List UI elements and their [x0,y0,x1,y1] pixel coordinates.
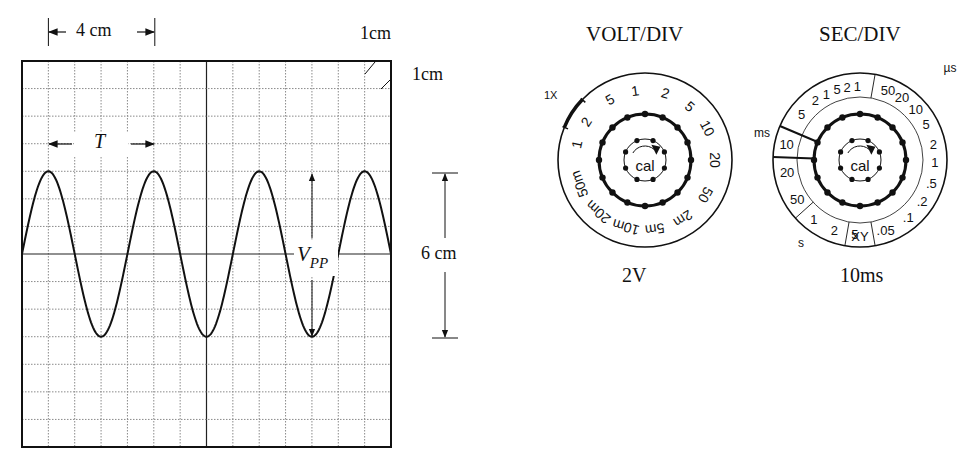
sec-label-ms: 5 [798,107,805,122]
knob-grip [659,114,665,120]
six-cm-label: 6 cm [421,243,457,264]
volt-dial-label: 50 [695,184,717,206]
corner-scale-marks [365,62,391,89]
volt-dial-label: 5 [682,98,698,115]
cal-grip [623,165,628,170]
unit-ms-label: ms [754,126,770,140]
cal-grip [662,165,667,170]
cal-rotate-arrow-icon [848,146,869,153]
volt-div-title: VOLT/DIV [586,22,683,47]
sec-label-us: .1 [903,210,914,225]
cal-grip [865,177,870,182]
knob-grip [609,189,615,195]
knob-grip [659,199,665,205]
knob-grip [599,139,605,145]
knob-grip [624,114,630,120]
knob-grip [903,157,909,163]
sec-label-s: 1 [810,212,817,227]
cal-grip [650,138,655,143]
knob-grip [874,114,880,120]
cal-grip [650,177,655,182]
volt-dial-label: 50m [567,168,591,199]
cal-grip [838,165,843,170]
knob-grip [624,199,630,205]
top-right-cm-label: 1cm [360,23,391,44]
knob-grip [674,189,680,195]
volt-div-dial[interactable]: 1X251251020502m5m10m20m50m1cal [544,73,732,247]
cal-grip [838,149,843,154]
knob-grip [811,157,817,163]
knob-grip [599,174,605,180]
cal-grip [877,149,882,154]
knob-grip [857,111,863,117]
sec-label-us: 2 [930,137,937,152]
sec-label-ms: 1 [854,79,861,94]
sec-label-ms: 50 [790,192,804,207]
knob-grip [899,139,905,145]
vpp-label: VPP [297,242,328,267]
sec-div-title: SEC/DIV [819,22,901,47]
cal-label: cal [850,157,869,174]
sec-label-ms: 5 [834,82,841,97]
knob-grip [824,124,830,130]
cal-label: cal [635,157,654,174]
sec-label-us: .05 [877,223,895,238]
sec-div-dial[interactable]: 215215102050502010521.5.2.1.05XY125µsmss… [754,61,956,250]
knob-grip [642,111,648,117]
sec-label-ms: 20 [780,165,794,180]
cal-grip [877,165,882,170]
knob-grip [814,174,820,180]
segment-divider [773,157,814,158]
segment-divider [871,74,875,98]
volt-dial-label: 5 [603,90,618,108]
cal-grip [634,177,639,182]
knob-grip [596,157,602,163]
four-cm-label: 4 cm [76,20,112,41]
sec-label-ms: 2 [812,93,819,108]
sec-label-us: .5 [926,176,937,191]
knob-grip [874,199,880,205]
sec-label-s: 5 [851,227,858,242]
sec-setting-value: 10ms [840,264,883,287]
volt-dial-label: 2 [577,114,595,129]
knob-grip [889,189,895,195]
knob-grip [688,157,694,163]
cal-grip [623,149,628,154]
knob-grip [824,189,830,195]
cal-arrowhead-icon [651,145,660,155]
segment-divider [871,222,875,246]
sec-label-us: 20 [895,90,909,105]
cal-rotate-arrow-icon [633,146,654,153]
knob-grip [642,203,648,209]
sec-label-us: 5 [923,117,930,132]
sec-label-ms: 2 [844,80,851,95]
cal-grip [634,138,639,143]
volt-dial-label: 2m [671,207,696,231]
knob-grip [839,199,845,205]
knob-grip [839,114,845,120]
sec-label-ms: 1 [823,87,830,102]
volt-dial-label: 5m [644,220,665,239]
diagram-canvas: 1X251251020502m5m10m20m50m1cal 215215102… [0,0,970,468]
sec-label-s: 2 [831,223,838,238]
knob-grip [889,124,895,130]
sec-label-us: 10 [909,102,923,117]
knob-grip [899,174,905,180]
x1-label: 1X [544,89,558,101]
sec-label-us: .2 [917,194,928,209]
unit-us-label: µs [944,61,957,75]
volt-dial-label: 20m [583,197,614,227]
volt-dial-label: 20 [707,152,723,168]
vpp-main: V [297,242,310,266]
cal-grip [849,177,854,182]
cal-grip [662,149,667,154]
volt-setting-value: 2V [622,264,646,287]
knob-grip [814,139,820,145]
knob-grip [674,124,680,130]
knob-grip [609,124,615,130]
volt-dial-label: 10 [697,118,718,139]
sec-label-us: 50 [881,83,895,98]
oscilloscope-diagram: 1X251251020502m5m10m20m50m1cal 215215102… [0,0,970,468]
sec-label-selected: 10 [779,137,793,152]
right-cm-label: 1cm [412,64,443,85]
